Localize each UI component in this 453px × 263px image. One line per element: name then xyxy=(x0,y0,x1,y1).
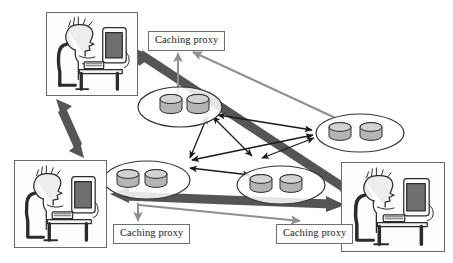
workstation-bottom-right xyxy=(341,162,445,252)
gray-arrow-to-bottom-right-proxy xyxy=(139,205,300,221)
workstation-bottom-left xyxy=(14,160,107,248)
thick-arrow-left-vertical xyxy=(56,99,84,158)
caching-proxy-label-bottom-left: Caching proxy xyxy=(113,224,190,244)
disk-icon xyxy=(117,170,139,188)
user-at-computer-icon xyxy=(342,163,444,251)
caching-proxy-label-top: Caching proxy xyxy=(148,31,225,51)
disk-icon xyxy=(160,94,182,113)
disk-icon xyxy=(145,170,167,188)
disk-icon xyxy=(250,175,272,193)
cluster-right xyxy=(316,114,404,152)
workstation-top-left xyxy=(46,12,138,96)
user-at-computer-icon xyxy=(47,13,137,95)
disk-icon xyxy=(280,175,302,193)
diagram-canvas: Caching proxy Caching proxy Caching prox… xyxy=(0,0,453,263)
user-at-computer-icon xyxy=(15,161,106,247)
disk-icon xyxy=(187,94,209,113)
cluster-bottom-mid xyxy=(237,166,325,204)
cluster-bottom-left xyxy=(104,161,190,199)
disk-icon xyxy=(329,123,351,141)
disk-icon xyxy=(360,123,382,141)
caching-proxy-label-bottom-right: Caching proxy xyxy=(276,224,353,244)
cluster-top xyxy=(138,87,222,127)
